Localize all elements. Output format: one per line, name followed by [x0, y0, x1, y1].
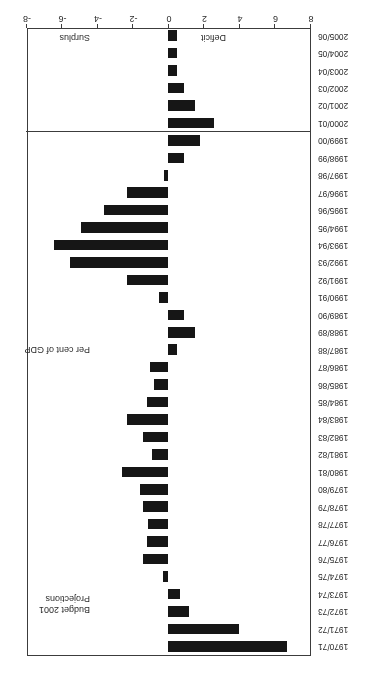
value-tick-4: 4: [225, 14, 255, 24]
bar-1976-77: [147, 536, 168, 546]
bar-1980-81: [122, 467, 168, 477]
bar-1998-99: [168, 153, 184, 163]
value-axis: 86420-2-4-6-8: [27, 4, 311, 24]
category-label-1990-91: 1990/91: [318, 292, 348, 304]
bar-1978-79: [143, 502, 168, 512]
value-tick-mark: [97, 24, 98, 28]
value-tick-2: 2: [190, 14, 220, 24]
category-label-1987-88: 1987/88: [318, 345, 348, 357]
category-label-2000-01: 2000/01: [318, 118, 348, 130]
bar-1981-82: [152, 449, 168, 459]
category-label-1984-85: 1984/85: [318, 397, 348, 409]
category-label-1983-84: 1983/84: [318, 415, 348, 427]
bar-1991-92: [127, 275, 168, 285]
category-label-1977-78: 1977/78: [318, 519, 348, 531]
category-label-1996-97: 1996/97: [318, 188, 348, 200]
category-label-2002-03: 2002/03: [318, 83, 348, 95]
category-label-2001-02: 2001/02: [318, 101, 348, 113]
bar-1996-97: [127, 188, 168, 198]
bar-1992-93: [70, 257, 168, 267]
annotation-budget-projections: Budget 2001 Projections: [39, 593, 90, 615]
category-label-1985-86: 1985/86: [318, 380, 348, 392]
bar-2004-05: [168, 48, 177, 58]
value-tick-6: 6: [261, 14, 291, 24]
bar-2003-04: [168, 65, 177, 75]
bar-1975-76: [143, 554, 168, 564]
bar-1974-75: [163, 571, 168, 581]
category-label-1974-75: 1974/75: [318, 572, 348, 584]
value-tick-neg8: -8: [12, 14, 42, 24]
category-label-1975-76: 1975/76: [318, 554, 348, 566]
category-label-1980-81: 1980/81: [318, 467, 348, 479]
bar-1993-94: [54, 240, 168, 250]
category-label-1992-93: 1992/93: [318, 258, 348, 270]
bar-1999-00: [168, 135, 200, 145]
value-tick-mark: [168, 24, 169, 28]
category-label-1991-92: 1991/92: [318, 275, 348, 287]
category-label-1972-73: 1972/73: [318, 606, 348, 618]
category-label-1982-83: 1982/83: [318, 432, 348, 444]
category-label-1988-89: 1988/89: [318, 327, 348, 339]
category-label-1993-94: 1993/94: [318, 240, 348, 252]
category-label-1970-71: 1970/71: [318, 641, 348, 653]
bar-2001-02: [168, 100, 195, 110]
value-tick-8: 8: [296, 14, 326, 24]
category-axis: 1970/711971/721972/731973/741974/751975/…: [314, 28, 382, 656]
annotation-deficit: Deficit: [201, 32, 226, 43]
bar-1973-74: [168, 589, 180, 599]
bar-1987-88: [168, 345, 177, 355]
bar-1985-86: [154, 379, 168, 389]
bar-1970-71: [168, 641, 287, 651]
axis-label-percent-of-gdp: Per cent of GDP: [24, 344, 90, 355]
category-label-1989-90: 1989/90: [318, 310, 348, 322]
bar-1994-95: [81, 222, 168, 232]
value-tick-0: 0: [154, 14, 184, 24]
value-tick-mark: [310, 24, 311, 28]
bar-1989-90: [168, 310, 184, 320]
category-label-1994-95: 1994/95: [318, 223, 348, 235]
plot-area: Surplus Deficit Per cent of GDP Budget 2…: [27, 28, 311, 656]
category-label-1978-79: 1978/79: [318, 502, 348, 514]
bar-1988-89: [168, 327, 195, 337]
bar-1990-91: [159, 292, 168, 302]
bar-1983-84: [127, 414, 168, 424]
bar-1995-96: [104, 205, 168, 215]
category-label-1981-82: 1981/82: [318, 449, 348, 461]
bar-1984-85: [147, 397, 168, 407]
bar-1997-98: [164, 170, 168, 180]
category-label-1979-80: 1979/80: [318, 484, 348, 496]
category-label-2003-04: 2003/04: [318, 66, 348, 78]
bar-2000-01: [168, 118, 214, 128]
value-tick-neg6: -6: [48, 14, 78, 24]
annotation-budget-projections-line1: Budget 2001: [39, 604, 90, 615]
chart-figure: Surplus Deficit Per cent of GDP Budget 2…: [0, 0, 382, 678]
value-tick-mark: [204, 24, 205, 28]
bar-1979-80: [140, 484, 168, 494]
category-label-1986-87: 1986/87: [318, 362, 348, 374]
value-tick-mark: [26, 24, 27, 28]
category-label-1973-74: 1973/74: [318, 589, 348, 601]
category-label-2005-06: 2005/06: [318, 31, 348, 43]
projection-divider: [26, 131, 310, 132]
bar-1977-78: [148, 519, 168, 529]
bar-2002-03: [168, 83, 184, 93]
value-tick-mark: [275, 24, 276, 28]
category-label-2004-05: 2004/05: [318, 48, 348, 60]
category-label-1998-99: 1998/99: [318, 153, 348, 165]
category-label-1971-72: 1971/72: [318, 624, 348, 636]
value-tick-mark: [62, 24, 63, 28]
category-label-1976-77: 1976/77: [318, 537, 348, 549]
value-tick-mark: [133, 24, 134, 28]
value-tick-mark: [239, 24, 240, 28]
bar-2005-06: [168, 31, 177, 41]
annotation-budget-projections-line2: Projections: [39, 593, 90, 604]
bar-1972-73: [168, 606, 189, 616]
bar-1982-83: [143, 432, 168, 442]
value-tick-neg2: -2: [119, 14, 149, 24]
footnote-container: Excluding Windfall tax and associated sp…: [1, 188, 21, 548]
category-label-1999-00: 1999/00: [318, 135, 348, 147]
bar-1971-72: [168, 624, 239, 634]
value-tick-neg4: -4: [83, 14, 113, 24]
bar-1986-87: [150, 362, 168, 372]
category-label-1995-96: 1995/96: [318, 205, 348, 217]
